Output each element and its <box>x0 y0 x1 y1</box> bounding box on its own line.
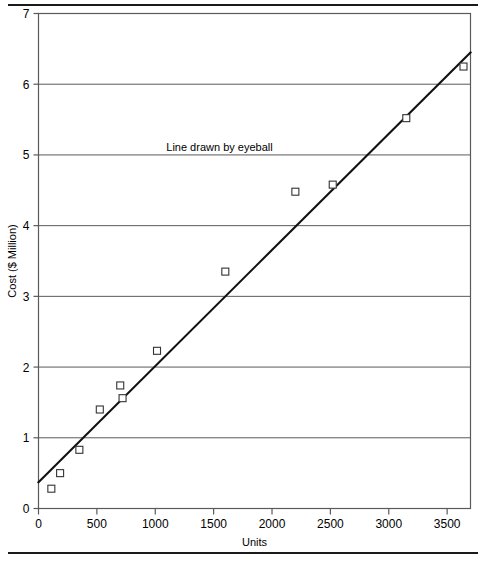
x-tick-label: 500 <box>87 517 107 531</box>
x-tick-label: 3000 <box>375 517 402 531</box>
plot-border <box>39 14 471 509</box>
y-tick-label: 0 <box>23 502 30 516</box>
y-tick-label: 1 <box>23 431 30 445</box>
data-point <box>154 347 161 354</box>
data-point <box>96 406 103 413</box>
x-axis-ticks <box>39 509 448 515</box>
data-point <box>117 382 124 389</box>
data-point <box>292 188 299 195</box>
y-tick-label: 3 <box>23 290 30 304</box>
annotation-label: Line drawn by eyeball <box>166 141 272 153</box>
grid-lines <box>39 84 471 438</box>
x-tick-label: 2000 <box>259 517 286 531</box>
y-tick-label: 4 <box>23 219 30 233</box>
x-tick-label: 1000 <box>142 517 169 531</box>
data-point <box>76 446 83 453</box>
y-axis-title: Cost ($ Million) <box>6 224 18 297</box>
data-point <box>403 115 410 122</box>
y-tick-label: 2 <box>23 361 30 375</box>
x-tick-label: 0 <box>35 517 42 531</box>
y-tick-label: 7 <box>23 7 30 21</box>
y-axis-ticks <box>34 14 39 509</box>
data-point <box>57 470 64 477</box>
data-point <box>222 268 229 275</box>
data-point <box>329 181 336 188</box>
x-tick-label: 2500 <box>317 517 344 531</box>
data-point <box>48 485 55 492</box>
x-axis-tick-labels: 0500100015002000250030003500 <box>35 517 461 531</box>
figure-container: 0500100015002000250030003500 01234567 Li… <box>0 0 485 565</box>
plot-frame <box>39 14 471 509</box>
y-axis-tick-labels: 01234567 <box>23 7 30 516</box>
x-tick-label: 3500 <box>434 517 461 531</box>
chart-annotations: Line drawn by eyeball <box>166 141 272 153</box>
data-point <box>460 63 467 70</box>
y-tick-label: 5 <box>23 148 30 162</box>
data-point <box>119 395 126 402</box>
scatter-chart: 0500100015002000250030003500 01234567 Li… <box>0 0 485 565</box>
x-axis-title: Units <box>242 536 268 548</box>
y-tick-label: 6 <box>23 78 30 92</box>
x-tick-label: 1500 <box>200 517 227 531</box>
data-point-markers <box>48 63 467 492</box>
